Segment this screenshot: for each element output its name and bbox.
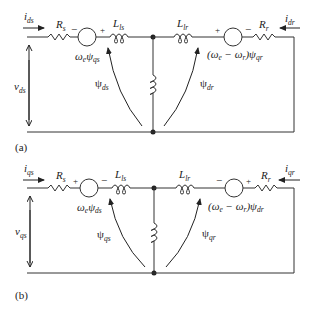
stator-voltage-source	[78, 28, 96, 46]
source-sign-left: +	[73, 176, 78, 186]
magnetizing-inductor	[150, 75, 156, 95]
figure-caption: (a)	[15, 141, 28, 154]
voltage-label: vqs	[15, 225, 27, 240]
stator-flux-label: ψqs	[97, 228, 111, 243]
rotor-voltage-source	[225, 179, 243, 197]
rotor-source-label: (ωe − ωr)ψdr	[208, 200, 264, 214]
rotor-resistor-label: Rr	[258, 18, 269, 33]
current-out-label: iqr	[285, 162, 295, 177]
rotor-flux-label: ψdr	[200, 77, 214, 92]
source-sign-left: +	[215, 25, 220, 35]
rotor-inductor-label: Llr	[178, 168, 190, 183]
stator-source-label: ωeψds	[77, 201, 102, 215]
stator-inductor-label: Lls	[112, 17, 124, 32]
stator-leakage-inductor	[110, 34, 128, 43]
figure-caption: (b)	[15, 289, 28, 302]
rotor-flux-arrow	[164, 48, 198, 126]
current-in-label: iqs	[24, 162, 34, 177]
stator-leakage-inductor	[112, 185, 130, 194]
stator-flux-arrow	[110, 199, 145, 267]
rotor-resistor-label: Rr	[260, 169, 271, 184]
current-in-label: ids	[24, 10, 34, 25]
q-axis-circuit: iqs Rs + − ωeψds Lls Llr − + (ωe − ωr)ψd…	[15, 162, 300, 302]
voltage-label: vds	[14, 80, 26, 95]
source-sign-left: −	[216, 174, 222, 186]
source-sign-left: −	[71, 23, 77, 35]
stator-inductor-label: Lls	[114, 168, 126, 183]
stator-source-label: ωeψqs	[75, 50, 100, 64]
rotor-resistor	[255, 185, 277, 191]
stator-resistor	[48, 185, 70, 191]
stator-voltage-source	[80, 179, 98, 197]
rotor-leakage-inductor	[176, 185, 194, 194]
current-out-label: idr	[285, 12, 295, 27]
source-sign-right: +	[100, 25, 105, 35]
source-sign-right: −	[101, 174, 107, 186]
stator-resistor	[48, 34, 70, 40]
source-sign-right: −	[245, 23, 251, 35]
rotor-voltage-source	[224, 28, 242, 46]
rotor-leakage-inductor	[174, 34, 192, 43]
rotor-resistor	[253, 34, 275, 40]
stator-flux-label: ψds	[95, 77, 109, 92]
equivalent-circuit-diagram: ids Rs − + ωeψqs Lls Llr + − (ωe − ωr)ψq…	[0, 0, 311, 320]
stator-resistor-label: Rs	[55, 169, 66, 184]
rotor-flux-label: ψqr	[202, 227, 216, 242]
stator-flux-arrow	[108, 48, 142, 126]
rotor-flux-arrow	[166, 199, 200, 267]
d-axis-circuit: ids Rs − + ωeψqs Lls Llr + − (ωe − ωr)ψq…	[14, 10, 300, 154]
rotor-inductor-label: Llr	[176, 17, 188, 32]
magnetizing-inductor	[151, 223, 157, 243]
rotor-source-label: (ωe − ωr)ψqr	[207, 48, 263, 62]
stator-resistor-label: Rs	[55, 18, 66, 33]
source-sign-right: +	[246, 176, 251, 186]
